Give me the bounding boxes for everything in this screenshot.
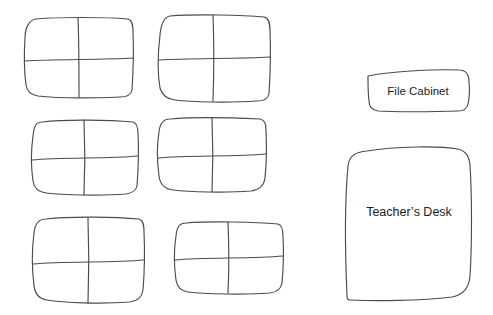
file-cabinet[interactable]: File Cabinet — [368, 70, 469, 112]
teachers-desk[interactable]: Teacher’s Desk — [346, 147, 472, 301]
file-cabinet-label: File Cabinet — [387, 85, 449, 97]
teachers-desk-outline — [346, 147, 472, 301]
desk-cluster-4[interactable] — [158, 118, 267, 192]
teachers-desk-label: Teacher’s Desk — [366, 205, 452, 219]
desk-cluster-2[interactable] — [158, 15, 270, 102]
desk-cluster-6[interactable] — [175, 222, 284, 294]
desk-cluster-3[interactable] — [32, 120, 139, 195]
desk-cluster-1[interactable] — [24, 18, 133, 98]
classroom-floor-plan: File Cabinet Teacher’s Desk — [0, 0, 493, 315]
desk-cluster-5[interactable] — [33, 217, 145, 303]
